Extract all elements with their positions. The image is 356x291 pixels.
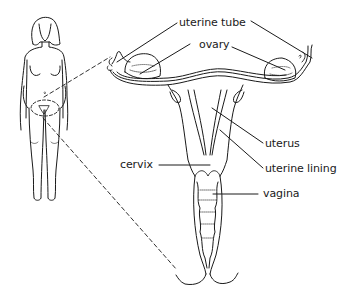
body-figure	[20, 17, 68, 200]
label-vagina: vagina	[263, 188, 299, 200]
label-uterine-tube: uterine tube	[179, 17, 246, 29]
label-uterus: uterus	[265, 138, 300, 150]
diagram-artwork	[0, 0, 356, 291]
label-cervix: cervix	[120, 159, 153, 171]
label-uterine-lining: uterine lining	[265, 163, 337, 175]
diagram-canvas: uterine tube ovary uterus cervix uterine…	[0, 0, 356, 291]
label-ovary: ovary	[199, 39, 230, 51]
